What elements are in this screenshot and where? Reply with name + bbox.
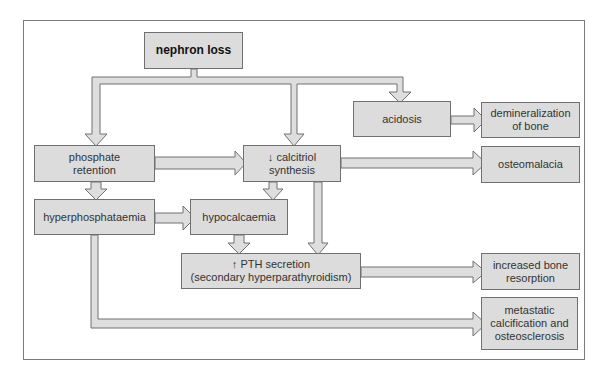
arrow-hyperphos-hypocalcaemia [155,206,195,230]
arrow-pth-resorption [361,261,486,283]
node-hypocalcaemia: hypocalcaemia [190,199,288,235]
node-label: phosphate retention [69,151,120,177]
arrow-hypocalcaemia-pth [228,235,250,254]
node-pth-secretion: ↑ PTH secretion (secondary hyperparathyr… [181,253,361,289]
node-nephron-loss: nephron loss [144,32,243,69]
node-label: increased bone resorption [493,259,568,285]
arrow-calcitriol-pth [308,182,328,255]
node-label: hyperphosphataemia [43,211,146,224]
node-label: osteomalacia [498,158,563,171]
node-label: metastatic calcification and osteosclero… [490,304,568,343]
arrow-phosphate-hyperphosphataemia [85,182,107,200]
arrow-phosphate-calcitriol [155,151,246,175]
node-phosphate-retention: phosphate retention [34,145,155,182]
node-label: demineralization of bone [490,107,570,133]
node-demineralization: demineralization of bone [481,102,580,138]
node-label: acidosis [382,113,422,126]
node-osteomalacia: osteomalacia [481,146,580,183]
node-label: nephron loss [156,44,231,57]
node-calcitriol: ↓ calcitriol synthesis [243,145,341,182]
node-label: ↑ PTH secretion (secondary hyperparathyr… [191,258,352,284]
node-acidosis: acidosis [353,101,451,137]
node-metastatic-calcification: metastatic calcification and osteosclero… [481,297,578,350]
node-hyperphosphataemia: hyperphosphataemia [34,199,155,235]
arrow-calcitriol-hypocalcaemia [263,182,283,200]
node-label: hypocalcaemia [202,211,275,224]
node-bone-resorption: increased bone resorption [481,253,580,290]
node-label: ↓ calcitriol synthesis [268,151,316,177]
arrow-calcitriol-osteomalacia [341,151,486,175]
